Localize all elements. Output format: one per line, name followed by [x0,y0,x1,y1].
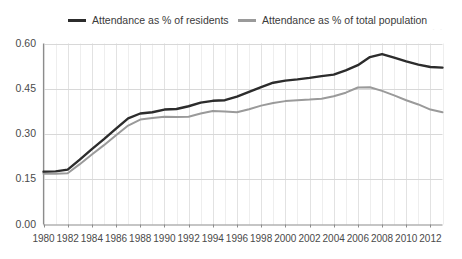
x-tick-label: 2012 [415,233,445,244]
major-gridlines [44,44,443,225]
y-tick-label: 0.30 [2,128,36,139]
chart-svg [0,0,462,259]
y-tick-label: 0.45 [2,83,36,94]
y-tick-label: 0.60 [2,38,36,49]
plot-area: 0.000.150.300.450.60 1980198219841986198… [0,0,462,259]
y-tick-label: 0.00 [2,219,36,230]
y-tick-label: 0.15 [2,173,36,184]
chart-container: Attendance as % of residents Attendance … [0,0,462,259]
